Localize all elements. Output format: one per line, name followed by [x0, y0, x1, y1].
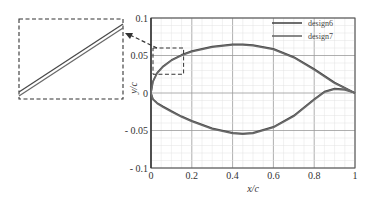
x-tick-label: 0.4 [226, 170, 239, 181]
y-tick-label: 0.05 [131, 50, 149, 61]
y-tick-label: 0 [143, 88, 148, 99]
zoom-arrow [130, 35, 157, 48]
x-tick-label: 0 [149, 170, 154, 181]
x-axis-label: x/c [246, 183, 259, 194]
x-tick-label: 0.2 [186, 170, 199, 181]
y-axis-label: y/c [128, 82, 139, 95]
y-tick-label: 0.1 [136, 13, 149, 24]
y-tick-label: - 0.1 [130, 163, 148, 174]
x-tick-label: 1 [353, 170, 358, 181]
legend-label: design7 [308, 32, 333, 41]
x-tick-label: 0.6 [267, 170, 280, 181]
legend-label: design6 [308, 19, 333, 28]
x-tick-label: 0.8 [308, 170, 321, 181]
inset-box [19, 19, 123, 99]
airfoil-chart: 00.20.40.60.810.10.050- 0.05- 0.1x/cy/cd… [0, 0, 370, 199]
y-tick-label: - 0.05 [125, 125, 148, 136]
legend: design6design7 [272, 19, 333, 41]
